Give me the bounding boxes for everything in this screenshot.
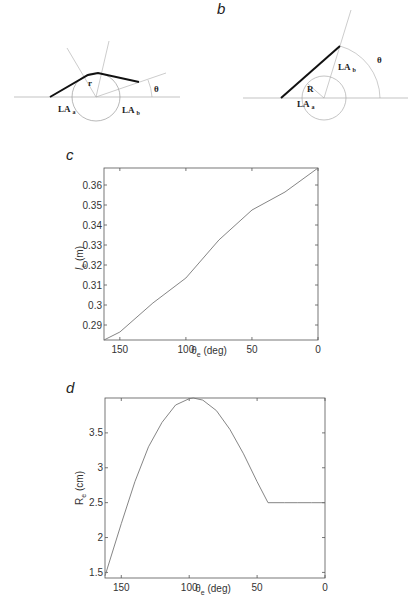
x-axis-label: θe (deg) <box>195 583 231 596</box>
chart-c: c 1501005000.290.30.310.320.330.340.350.… <box>66 146 321 358</box>
figure: r θ LAa LAb b R θ LAa LAb c 1501005000.2… <box>0 0 408 607</box>
data-line <box>104 168 318 340</box>
x-tick-label: 150 <box>113 582 130 593</box>
y-tick-label: 0.36 <box>83 180 103 191</box>
x-tick-label: 150 <box>112 344 129 355</box>
panel-c-label: c <box>66 146 74 163</box>
y-tick-label: 0.35 <box>83 200 103 211</box>
panel-a-diagram: r θ LAa LAb <box>14 41 180 121</box>
panel-b-label: b <box>217 0 225 17</box>
y-tick-label: 3.5 <box>89 427 103 438</box>
y-tick-label: 2.5 <box>89 497 103 508</box>
y-tick-label: 1.5 <box>89 567 103 578</box>
x-tick-label: 50 <box>246 344 258 355</box>
label-theta-a: θ <box>154 84 159 94</box>
x-tick-label: 0 <box>322 582 328 593</box>
panel-b-diagram: b R θ LAa LAb <box>217 0 408 120</box>
label-la-a: LAa <box>58 104 76 115</box>
label-la-b-b: LAb <box>338 62 357 73</box>
x-tick-label: 0 <box>315 344 321 355</box>
x-tick-label: 50 <box>252 582 264 593</box>
label-la-a-b: LAa <box>297 99 315 110</box>
y-tick-label: 3 <box>97 462 103 473</box>
label-theta-b: θ <box>377 55 382 65</box>
panel-d-label: d <box>66 379 75 396</box>
label-r: r <box>88 78 92 88</box>
y-tick-label: 0.34 <box>83 220 103 231</box>
y-axis-label: Re (cm) <box>74 471 87 505</box>
y-tick-label: 0.29 <box>83 320 103 331</box>
data-line <box>105 398 325 576</box>
x-axis-label: θe (deg) <box>191 345 227 358</box>
plot-frame <box>104 168 318 340</box>
y-tick-label: 0.33 <box>83 240 103 251</box>
y-tick-label: 0.3 <box>88 300 102 311</box>
chart-d: d 1501005001.522.533.5θe (deg)Re (cm) <box>66 379 328 596</box>
y-tick-label: 0.31 <box>83 280 103 291</box>
y-tick-label: 2 <box>97 532 103 543</box>
label-R: R <box>307 84 314 94</box>
label-la-b: LAb <box>122 105 141 116</box>
plot-frame <box>105 398 325 578</box>
